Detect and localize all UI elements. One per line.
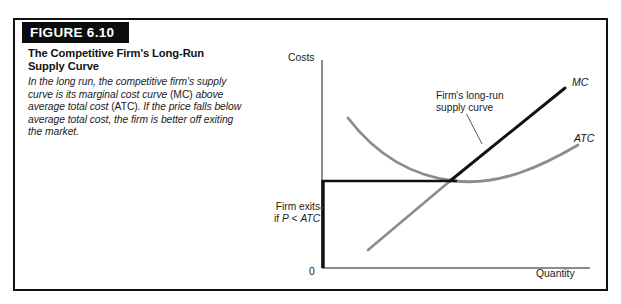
scan-artifact-text [14,0,434,9]
supply-curve-annotation-line-2: supply curve [436,102,504,114]
mc-curve-below-minimum [368,181,450,250]
atc-curve-label: ATC [574,132,594,144]
firm-exits-price-symbol: P [282,213,289,224]
y-axis-label: Costs [288,52,315,63]
firm-exits-operator: < [289,213,301,224]
firm-exits-atc-symbol: ATC [300,213,320,224]
figure-caption-text: In the long run, the competitive firm's … [28,76,250,139]
mc-curve-label: MC [572,76,588,88]
chart-plot-svg [270,40,600,285]
firm-exits-prefix: if [274,213,282,224]
figure-title-line-1: The Competitive Firm's Long-Run [28,47,250,60]
figure-number-label: FIGURE 6.10 [22,25,114,40]
cost-curves-chart: Costs Quantity 0 MC ATC Firm's long-run … [270,40,600,285]
x-axis-label: Quantity [536,268,575,279]
caption-abbr-mc: (MC) [170,89,193,100]
supply-curve-annotation-line-1: Firm's long-run [436,90,504,102]
figure-title-line-2: Supply Curve [28,60,250,73]
origin-label: 0 [309,266,315,277]
supply-curve-annotation: Firm's long-run supply curve [436,90,504,114]
figure-title: The Competitive Firm's Long-Run Supply C… [28,47,250,73]
firm-exits-annotation-line-2: if P < ATC [248,213,320,225]
caption-abbr-atc: (ATC) [111,101,137,112]
firm-exits-annotation-line-1: Firm exits [248,201,320,213]
figure-caption-block: The Competitive Firm's Long-Run Supply C… [28,47,250,139]
figure-number-banner: FIGURE 6.10 [22,22,129,43]
page-canvas: FIGURE 6.10 The Competitive Firm's Long-… [0,0,621,304]
supply-callout-leader-line [466,113,482,144]
firm-exits-annotation: Firm exits if P < ATC [248,201,320,225]
